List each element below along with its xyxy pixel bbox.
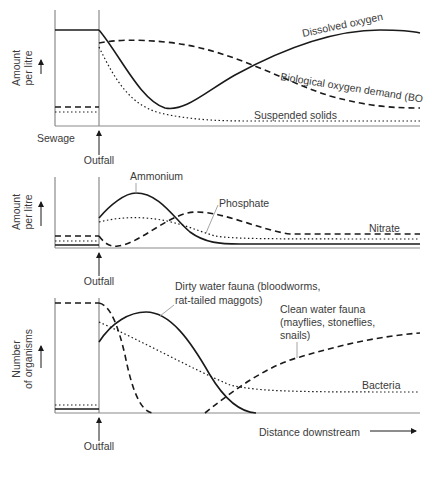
ammonium-label: Ammonium	[130, 170, 183, 182]
sewage-label: Sewage	[37, 132, 75, 144]
bod-curve	[99, 40, 420, 108]
suspended-solids-label: Suspended solids	[254, 109, 337, 121]
outfall-label: Outfall	[84, 440, 114, 452]
y-axis-label: Amount per litre	[10, 50, 34, 86]
clean-water-label-line3: snails)	[280, 329, 310, 341]
dirty-water-fauna-curve	[99, 312, 256, 413]
svg-text:Number: Number	[10, 340, 22, 378]
clean-water-label-line1: Clean water fauna	[280, 303, 365, 315]
panel-nutrients: Amount per litre Ammonium Phosphate Nitr…	[10, 170, 420, 287]
nitrate-label: Nitrate	[369, 222, 400, 234]
bacteria-label: Bacteria	[362, 379, 401, 391]
dirty-water-label-line1: Dirty water fauna (bloodworms,	[175, 280, 320, 292]
outfall-label: Outfall	[84, 275, 114, 287]
dissolved-oxygen-label: Dissolved oxygen	[301, 10, 384, 39]
svg-text:Amount: Amount	[10, 50, 22, 86]
x-axis-label: Distance downstream	[259, 426, 360, 438]
river-pollution-diagram: Amount per litre Dissolved oxygen Biolog…	[0, 0, 432, 479]
outfall-label: Outfall	[84, 154, 114, 166]
clean-water-fauna-curve-downstream	[205, 333, 420, 413]
clean-water-label-line2: (mayflies, stoneflies,	[280, 316, 375, 328]
svg-text:Amount: Amount	[10, 194, 22, 230]
dirty-water-label-line2: rat-tailed maggots)	[175, 294, 263, 306]
svg-text:per litre: per litre	[22, 194, 34, 229]
panel-organisms: Number of organisms Dirty water fauna (b…	[10, 280, 420, 452]
svg-text:per litre: per litre	[22, 50, 34, 85]
dissolved-oxygen-curve	[99, 30, 420, 109]
y-axis-label: Number of organisms	[10, 329, 34, 389]
phosphate-label: Phosphate	[219, 197, 269, 209]
y-axis-label: Amount per litre	[10, 194, 34, 230]
bod-label: Biological oxygen demand (BO	[280, 70, 424, 104]
svg-text:of organisms: of organisms	[22, 329, 34, 389]
clean-water-fauna-curve-upstream	[99, 303, 152, 413]
panel-oxygen: Amount per litre Dissolved oxygen Biolog…	[10, 10, 424, 166]
